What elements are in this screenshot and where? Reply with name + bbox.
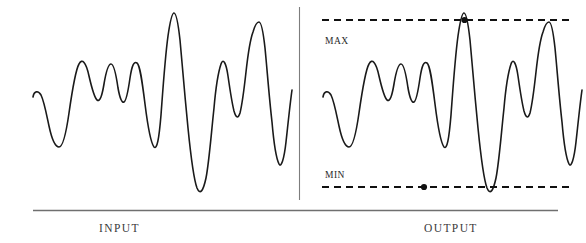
input-caption: INPUT bbox=[99, 222, 140, 234]
figure-root: MAX MIN INPUT OUTPUT bbox=[0, 0, 586, 243]
max-label: MAX bbox=[325, 36, 349, 46]
max-marker-dot bbox=[461, 17, 467, 23]
input-waveform-group bbox=[33, 13, 292, 192]
min-label: MIN bbox=[325, 170, 345, 180]
input-waveform-path bbox=[33, 13, 292, 192]
figure-canvas: MAX MIN bbox=[0, 0, 586, 243]
output-waveform-group bbox=[323, 13, 582, 192]
output-caption: OUTPUT bbox=[424, 222, 478, 234]
min-marker-dot bbox=[421, 184, 427, 190]
output-waveform-path bbox=[323, 13, 582, 192]
